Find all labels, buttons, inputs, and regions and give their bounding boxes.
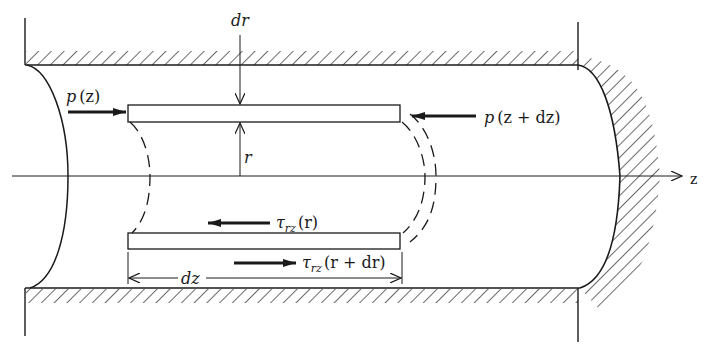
pressure-left-label: p(z) — [66, 87, 100, 106]
shear-inner: τrz(r) — [208, 213, 318, 235]
right-end-cap — [575, 50, 670, 320]
r-label: r — [244, 148, 253, 167]
shear-inner-label: τrz(r) — [276, 213, 318, 235]
bottom-shell-element — [128, 233, 400, 249]
bottom-wall — [25, 288, 580, 342]
r-dimension: r — [240, 123, 253, 176]
shear-outer-label: τrz(r + dr) — [302, 253, 386, 275]
pressure-right-label: p(z + dz) — [484, 108, 560, 127]
dz-label: dz — [181, 269, 200, 288]
top-shell-element — [128, 105, 400, 122]
shear-outer: τrz(r + dr) — [234, 253, 386, 275]
top-wall — [25, 18, 578, 70]
z-axis-label: z — [690, 171, 697, 187]
pressure-left: p(z) — [66, 87, 126, 112]
dr-label: dr — [231, 11, 250, 30]
pressure-right: p(z + dz) — [412, 108, 560, 127]
annular-element-diagram: z dr r p(z) p(z + dz) τrz(r) — [0, 0, 707, 356]
